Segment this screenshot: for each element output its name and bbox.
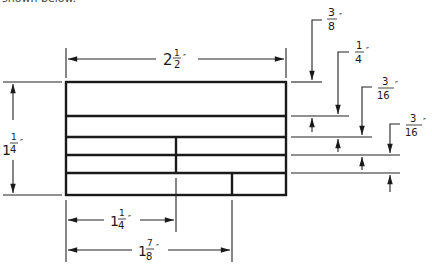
svg-text:1: 1 [174,48,180,58]
svg-text:8: 8 [328,20,335,33]
svg-text:″: ″ [183,54,186,63]
svg-text:3: 3 [382,76,388,87]
dimension-divider-offset: 1 1 4 ″ [66,178,176,262]
svg-text:1: 1 [356,40,362,51]
dimension-overall-height: 1 1 4 ″ [2,82,62,195]
title-block-diagram: 2 1 2 ″ 1 1 4 ″ 1 1 4 ″ 1 7 8 ″ [0,0,432,269]
svg-text:1: 1 [11,132,17,142]
svg-text:2: 2 [163,51,173,69]
svg-text:4: 4 [118,220,124,231]
svg-text:7: 7 [147,238,153,248]
dimension-overall-width: 2 1 2 ″ [66,48,286,78]
svg-text:4: 4 [355,53,362,66]
svg-text:3: 3 [410,113,416,124]
svg-text:″: ″ [423,118,426,127]
svg-text:3: 3 [328,6,335,19]
dimension-second-divider-offset: 1 7 8 ″ [68,200,232,262]
svg-text:16: 16 [377,90,390,101]
svg-text:1: 1 [119,208,125,218]
dimension-row3: 3 16 ″ [362,76,398,170]
svg-text:8: 8 [146,251,152,262]
svg-text:4: 4 [10,144,16,155]
svg-text:2: 2 [174,59,180,70]
svg-text:16: 16 [405,127,418,138]
svg-text:″: ″ [128,215,131,224]
svg-text:″: ″ [339,13,342,22]
svg-text:″: ″ [395,81,398,90]
dimension-row2: 1 4 ″ [338,40,369,152]
svg-text:″: ″ [156,244,159,253]
svg-text:″: ″ [366,47,369,56]
svg-text:″: ″ [20,139,23,148]
dimension-row4: 3 16 ″ [390,113,426,192]
